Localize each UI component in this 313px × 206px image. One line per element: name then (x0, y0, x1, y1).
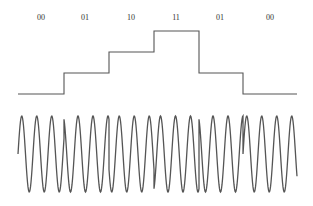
symbol-label: 00 (37, 13, 45, 22)
symbol-label: 01 (216, 13, 224, 22)
symbol-labels: 000110110100 (37, 13, 274, 22)
symbol-label: 00 (266, 13, 274, 22)
symbol-label: 01 (81, 13, 89, 22)
digital-signal-staircase (18, 31, 297, 94)
modulated-carrier-wave (18, 116, 297, 192)
symbol-label: 11 (172, 13, 180, 22)
symbol-label: 10 (127, 13, 135, 22)
modulation-diagram: 000110110100 (0, 0, 313, 206)
